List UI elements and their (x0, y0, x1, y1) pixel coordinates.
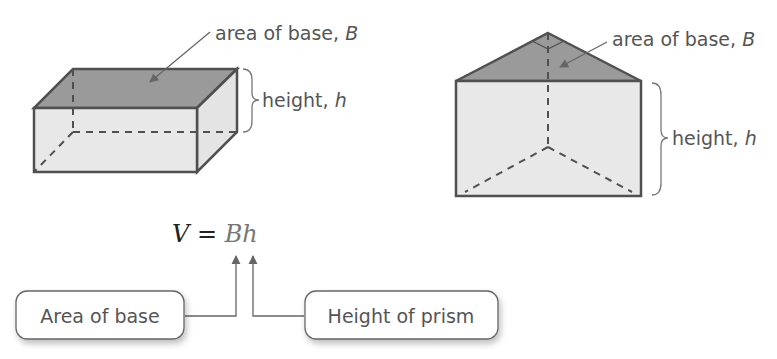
callout-area-of-base: Area of base (16, 291, 184, 339)
height-brace (652, 83, 668, 195)
height-arrow (253, 256, 304, 316)
rect-height-label: height, h (262, 89, 347, 111)
tri-height-label: height, h (672, 127, 757, 149)
svg-text:Area of base: Area of base (40, 305, 159, 327)
rect-front-face (34, 108, 197, 172)
callout-height-of-prism: Height of prism (305, 291, 498, 339)
prism-volume-diagram: area of base, B height, h area of base, … (0, 0, 777, 359)
triangular-prism: area of base, B height, h (456, 28, 757, 196)
svg-text:Height of prism: Height of prism (328, 305, 475, 327)
area-arrow (185, 256, 236, 316)
height-brace (243, 69, 259, 132)
volume-formula: V = Bh (172, 220, 258, 248)
rect-base-label: area of base, B (215, 22, 358, 44)
rectangular-prism: area of base, B height, h (34, 22, 358, 172)
tri-base-label: area of base, B (612, 28, 755, 50)
